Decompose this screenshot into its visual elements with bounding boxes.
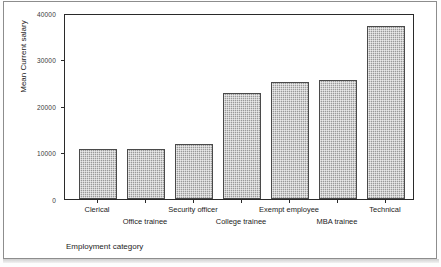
- y-axis-title: Mean Current salary: [19, 0, 28, 132]
- bar-exempt-employee[interactable]: [271, 82, 309, 199]
- chart-figure: 40000 30000 20000 10000 0 Mean Current s…: [0, 0, 441, 267]
- x-label-exempt-employee: Exempt employee: [259, 205, 319, 214]
- x-tick-mark: [337, 200, 338, 203]
- x-axis-title: Employment category: [66, 242, 143, 251]
- y-tick-label: 0: [52, 197, 56, 204]
- bar-security-officer[interactable]: [175, 144, 213, 199]
- x-label-security-officer: Security officer: [168, 205, 217, 214]
- y-tick-label: 30000: [37, 57, 56, 64]
- y-axis: 40000 30000 20000 10000 0: [4, 2, 64, 212]
- bar-college-trainee[interactable]: [223, 93, 261, 199]
- y-tick-label: 20000: [37, 104, 56, 111]
- x-label-technical: Technical: [369, 205, 400, 214]
- x-label-office-trainee: Office trainee: [123, 217, 167, 226]
- bar-mba-trainee[interactable]: [319, 80, 357, 199]
- y-tick-label: 10000: [37, 150, 56, 157]
- x-tick-mark: [193, 200, 194, 203]
- page-frame: 40000 30000 20000 10000 0 Mean Current s…: [3, 1, 437, 259]
- x-tick-mark: [145, 200, 146, 203]
- plot-area: [64, 14, 414, 200]
- page-shadow: [3, 259, 439, 263]
- x-tick-mark: [385, 200, 386, 203]
- x-tick-mark: [97, 200, 98, 203]
- x-label-college-trainee: College trainee: [216, 217, 266, 226]
- x-label-mba-trainee: MBA trainee: [317, 217, 358, 226]
- x-tick-mark: [241, 200, 242, 203]
- bar-office-trainee[interactable]: [127, 149, 165, 199]
- x-tick-mark: [289, 200, 290, 203]
- bar-technical[interactable]: [367, 26, 405, 199]
- x-label-clerical: Clerical: [84, 205, 109, 214]
- y-tick-label: 40000: [37, 11, 56, 18]
- bar-clerical[interactable]: [79, 149, 117, 199]
